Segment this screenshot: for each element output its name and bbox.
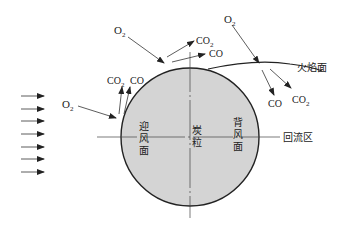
svg-text:风: 风: [139, 133, 149, 144]
svg-text:面: 面: [139, 145, 149, 156]
co2-left-arrow-icon: [119, 87, 122, 114]
co-top-label: CO: [209, 48, 223, 59]
co2-left-label: CO2: [107, 75, 125, 89]
carbon-particle-label: 炭 粒: [192, 125, 202, 148]
windward-face-label: 迎 风 面: [139, 121, 149, 156]
carbon-particle-combustion-diagram: O2 CO2 CO O2 CO2 CO O2 CO CO2 火焰面 回流区 迎 …: [0, 0, 342, 228]
o2-left-arrow-icon: [78, 106, 116, 118]
flame-surface-label: 火焰面: [297, 61, 327, 73]
svg-text:风: 风: [233, 129, 243, 140]
o2-top-label: O2: [114, 24, 126, 39]
co-right-label: CO: [268, 98, 282, 109]
co2-top-label: CO2: [196, 35, 214, 49]
co-top-arrow-icon: [172, 54, 205, 62]
o2-left-label: O2: [62, 98, 74, 113]
svg-text:炭: 炭: [192, 125, 202, 136]
co-right-arrow-icon: [262, 70, 274, 95]
co-left-label: CO: [130, 75, 144, 86]
o2-right-label: O2: [224, 13, 236, 28]
co2-right-label: CO2: [292, 94, 310, 108]
svg-text:面: 面: [233, 141, 243, 152]
leeward-face-label: 背 风 面: [233, 116, 243, 152]
incoming-flow-arrows: [21, 96, 44, 172]
recirculation-zone-label: 回流区: [283, 131, 313, 143]
svg-text:粒: 粒: [192, 136, 202, 148]
svg-text:迎: 迎: [139, 121, 149, 132]
co2-right-arrow-icon: [270, 69, 291, 88]
svg-text:背: 背: [233, 116, 243, 128]
o2-right-arrow-icon: [232, 25, 259, 63]
o2-top-arrow-icon: [128, 37, 164, 63]
